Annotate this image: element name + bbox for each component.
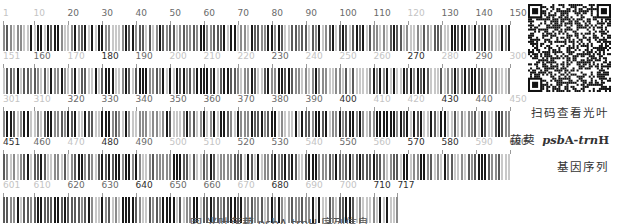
position-label: 520 xyxy=(238,137,255,148)
position-label: 540 xyxy=(306,137,323,148)
position-label: 210 xyxy=(204,51,221,62)
position-label: 360 xyxy=(204,94,221,105)
position-labels: 3013103203303403503603703803904004104204… xyxy=(3,94,512,107)
position-labels: 1102030405060708090100110120130140150 xyxy=(3,8,512,21)
gene-part: A- xyxy=(565,133,579,147)
position-label: 151 xyxy=(3,51,20,62)
position-label: 680 xyxy=(272,180,289,191)
position-label: 60 xyxy=(204,8,215,19)
barcode-row: 4514604704804905005105205305405505605705… xyxy=(3,137,512,180)
position-label: 620 xyxy=(68,180,85,191)
position-label: 160 xyxy=(34,51,51,62)
gene-part: trn xyxy=(578,133,598,147)
position-label: 590 xyxy=(476,137,493,148)
position-label: 280 xyxy=(442,51,459,62)
position-label: 450 xyxy=(510,94,527,105)
position-label: 10 xyxy=(34,8,45,19)
position-label: 230 xyxy=(272,51,289,62)
position-label: 430 xyxy=(442,94,459,105)
position-label: 220 xyxy=(238,51,255,62)
position-label: 30 xyxy=(102,8,113,19)
position-label: 580 xyxy=(442,137,459,148)
position-label: 70 xyxy=(238,8,249,19)
caption-text: 图 光叶菝葜 psbA-trnH 序列信息 xyxy=(0,215,589,224)
position-label: 150 xyxy=(510,8,527,19)
position-label: 110 xyxy=(374,8,391,19)
position-label: 20 xyxy=(68,8,79,19)
position-label: 180 xyxy=(102,51,119,62)
position-label: 530 xyxy=(272,137,289,148)
position-label: 660 xyxy=(204,180,221,191)
position-label: 670 xyxy=(238,180,255,191)
position-label: 400 xyxy=(340,94,357,105)
position-label: 170 xyxy=(68,51,85,62)
position-label: 100 xyxy=(340,8,357,19)
position-label: 570 xyxy=(408,137,425,148)
position-label: 301 xyxy=(3,94,20,105)
position-label: 140 xyxy=(476,8,493,19)
position-label: 340 xyxy=(136,94,153,105)
position-label: 300 xyxy=(510,51,527,62)
position-label: 330 xyxy=(102,94,119,105)
position-label: 650 xyxy=(170,180,187,191)
position-label: 717 xyxy=(397,180,414,191)
position-label: 440 xyxy=(476,94,493,105)
gene-part: psb xyxy=(542,133,565,147)
position-label: 310 xyxy=(34,94,51,105)
position-label: 550 xyxy=(340,137,357,148)
position-label: 510 xyxy=(204,137,221,148)
barcode-row: 1102030405060708090100110120130140150 xyxy=(3,8,512,51)
position-label: 390 xyxy=(306,94,323,105)
position-label: 290 xyxy=(476,51,493,62)
position-label: 240 xyxy=(306,51,323,62)
position-label: 410 xyxy=(374,94,391,105)
position-label: 690 xyxy=(306,180,323,191)
side-text-line-1: 扫码查看光叶 xyxy=(531,104,609,120)
position-label: 451 xyxy=(3,137,20,148)
position-label: 710 xyxy=(374,180,391,191)
position-label: 630 xyxy=(102,180,119,191)
sequence-bars xyxy=(3,111,512,137)
position-label: 700 xyxy=(340,180,357,191)
position-labels: 601610620630640650660670680690700710717 xyxy=(3,180,400,193)
position-label: 260 xyxy=(374,51,391,62)
position-label: 50 xyxy=(170,8,181,19)
position-label: 320 xyxy=(68,94,85,105)
position-label: 200 xyxy=(170,51,187,62)
position-label: 460 xyxy=(34,137,51,148)
position-label: 420 xyxy=(408,94,425,105)
barcode-row: 3013103203303403503603703803904004104204… xyxy=(3,94,512,137)
position-label: 350 xyxy=(170,94,187,105)
gene-part: H xyxy=(598,133,609,147)
position-label: 480 xyxy=(102,137,119,148)
position-label: 90 xyxy=(306,8,317,19)
position-label: 130 xyxy=(442,8,459,19)
position-label: 190 xyxy=(136,51,153,62)
position-labels: 4514604704804905005105205305405505605705… xyxy=(3,137,512,150)
position-label: 610 xyxy=(34,180,51,191)
position-label: 470 xyxy=(68,137,85,148)
position-label: 370 xyxy=(238,94,255,105)
position-label: 490 xyxy=(136,137,153,148)
position-label: 560 xyxy=(374,137,391,148)
species-name: 菝葜 xyxy=(510,133,542,147)
position-label: 40 xyxy=(136,8,147,19)
side-text-line-2: 菝葜 psbA-trnH xyxy=(510,131,609,147)
position-label: 120 xyxy=(408,8,425,19)
position-label: 380 xyxy=(272,94,289,105)
qr-code-icon xyxy=(528,4,611,92)
qr-code[interactable] xyxy=(528,4,611,92)
figure-caption: 图 光叶菝葜 psbA-trnH 序列信息 xyxy=(0,215,619,224)
sequence-bars xyxy=(3,68,512,94)
position-label: 80 xyxy=(272,8,283,19)
position-label: 601 xyxy=(3,180,20,191)
side-text-line-3: 基因序列 xyxy=(557,158,609,174)
position-label: 1 xyxy=(3,8,9,19)
sequence-bars xyxy=(3,154,512,180)
position-labels: 1511601701801902002102202302402502602702… xyxy=(3,51,512,64)
barcode-row: 1511601701801902002102202302402502602702… xyxy=(3,51,512,94)
position-label: 250 xyxy=(340,51,357,62)
sequence-bars xyxy=(3,25,512,51)
position-label: 270 xyxy=(408,51,425,62)
position-label: 640 xyxy=(136,180,153,191)
